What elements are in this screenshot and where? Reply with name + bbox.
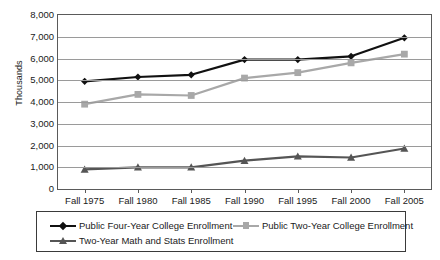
y-tick-label: 0 [8,184,54,194]
y-tick-label: 4,000 [8,97,54,107]
y-tick-label: 8,000 [8,10,54,20]
gridline [58,37,431,38]
x-tick-label: Fall 1980 [118,195,157,206]
data-point-marker [135,91,142,98]
x-tick-label: Fall 1975 [65,195,104,206]
line-chart: Thousands 01,0002,0003,0004,0005,0006,00… [0,0,440,260]
legend-item[interactable]: Two-Year Math and Stats Enrollment [50,235,233,246]
data-point-marker [348,59,355,66]
data-point-marker [188,71,195,78]
y-axis-tick-labels: 01,0002,0003,0004,0005,0006,0007,0008,00… [4,0,54,200]
x-tick-label: Fall 1995 [278,195,317,206]
legend-marker-icon [233,221,259,231]
x-tick-mark [298,189,299,193]
gridline [58,80,431,81]
legend-marker-icon [50,236,76,246]
data-point-marker [294,69,301,76]
x-axis-tick-labels: Fall 1975Fall 1980Fall 1985Fall 1990Fall… [57,192,432,208]
gridline [58,59,431,60]
y-tick-label: 2,000 [8,141,54,151]
plot-area [57,14,432,190]
gridline [58,102,431,103]
x-tick-mark [85,189,86,193]
gridline [58,124,431,125]
x-tick-label: Fall 2000 [332,195,371,206]
data-point-marker [401,51,408,58]
legend-item[interactable]: Public Two-Year College Enrollment [233,220,413,231]
y-tick-label: 5,000 [8,75,54,85]
x-tick-label: Fall 2005 [385,195,424,206]
data-point-marker [188,92,195,99]
y-tick-label: 7,000 [8,32,54,42]
chart-legend: Public Four-Year College EnrollmentPubli… [36,211,406,252]
legend-item[interactable]: Public Four-Year College Enrollment [50,220,232,231]
legend-marker-icon [50,221,76,231]
x-tick-mark [245,189,246,193]
legend-label: Two-Year Math and Stats Enrollment [79,235,233,246]
x-tick-mark [404,189,405,193]
y-tick-label: 3,000 [8,119,54,129]
x-tick-label: Fall 1985 [172,195,211,206]
y-tick-label: 1,000 [8,162,54,172]
x-tick-mark [138,189,139,193]
legend-label: Public Two-Year College Enrollment [262,220,413,231]
x-tick-mark [351,189,352,193]
gridline [58,146,431,147]
gridline [58,167,431,168]
legend-label: Public Four-Year College Enrollment [79,220,232,231]
y-tick-label: 6,000 [8,54,54,64]
data-point-marker [81,78,88,85]
x-tick-mark [191,189,192,193]
x-tick-label: Fall 1990 [225,195,264,206]
